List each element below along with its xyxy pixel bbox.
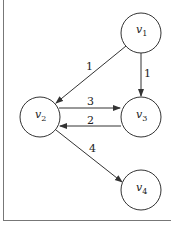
node-v2: v2 [20, 97, 60, 137]
node-v3: v3 [121, 97, 161, 137]
edge-v3-v2: 2 [60, 114, 121, 127]
graph-canvas: 1 1 3 2 4 v1 v2 v3 v4 [0, 0, 171, 227]
edge-weight: 2 [87, 114, 94, 127]
edge-weight: 4 [89, 142, 96, 155]
edge-v2-v4: 4 [56, 130, 122, 182]
node-v4: v4 [121, 170, 161, 210]
edge-weight: 1 [144, 67, 151, 80]
edge-weight: 1 [86, 60, 93, 73]
edge-v2-v3: 3 [59, 95, 120, 108]
edge-v1-v3: 1 [141, 53, 151, 96]
edge-weight: 3 [87, 95, 94, 108]
node-v1: v1 [121, 13, 161, 53]
